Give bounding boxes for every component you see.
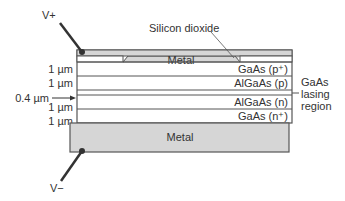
negative-terminal-label: V− bbox=[50, 182, 64, 194]
layer-label-algaas-p: AlGaAs (p) bbox=[234, 77, 288, 89]
thickness-label: 1 µm bbox=[48, 115, 73, 127]
positive-contact-dot bbox=[79, 49, 85, 55]
silicon-dioxide-left bbox=[77, 56, 123, 62]
top-metal-label: Metal bbox=[168, 54, 195, 66]
thickness-label: 1 µm bbox=[48, 77, 73, 89]
lasing-region-label-1: GaAs bbox=[301, 76, 329, 88]
negative-wire bbox=[61, 151, 82, 181]
layer-label-algaas-n: AlGaAs (n) bbox=[234, 96, 288, 108]
lasing-region-label-2: lasing bbox=[301, 88, 330, 100]
thickness-label-active: 0.4 µm bbox=[15, 92, 49, 104]
positive-terminal-label: V+ bbox=[42, 9, 56, 21]
lasing-region-label-3: region bbox=[301, 100, 332, 112]
bottom-metal-label: Metal bbox=[167, 131, 194, 143]
laser-diagram: Metal GaAs (p⁺) AlGaAs (p) AlGaAs (n) Ga… bbox=[0, 0, 345, 201]
layer-label-gaas-p: GaAs (p⁺) bbox=[238, 63, 288, 75]
layer-label-gaas-n: GaAs (n⁺) bbox=[238, 110, 288, 122]
thickness-label: 1 µm bbox=[48, 63, 73, 75]
thickness-label: 1 µm bbox=[48, 101, 73, 113]
negative-contact-dot bbox=[79, 148, 85, 154]
positive-wire bbox=[60, 23, 82, 52]
silicon-dioxide-right bbox=[240, 56, 292, 62]
arrowhead-icon bbox=[70, 96, 76, 101]
silicon-dioxide-label: Silicon dioxide bbox=[149, 22, 219, 34]
